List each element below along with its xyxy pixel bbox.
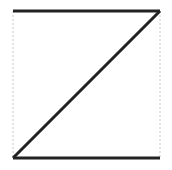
- z-diagram: [0, 0, 172, 170]
- diagonal-line: [13, 11, 160, 158]
